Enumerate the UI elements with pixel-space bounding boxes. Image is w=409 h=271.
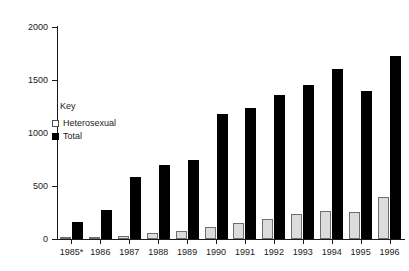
x-axis-tick xyxy=(361,240,362,244)
bar-heterosexual xyxy=(291,214,302,239)
legend-swatch-heterosexual xyxy=(52,120,59,127)
bar-total xyxy=(130,177,141,239)
bar-group xyxy=(320,27,343,239)
bar-heterosexual xyxy=(89,237,100,239)
legend-label-heterosexual: Heterosexual xyxy=(63,118,116,128)
bar-total xyxy=(390,56,401,239)
bar-group xyxy=(262,27,285,239)
bar-heterosexual xyxy=(60,237,71,239)
bar-heterosexual xyxy=(262,219,273,239)
bar-heterosexual xyxy=(233,223,244,239)
legend-item-heterosexual: Heterosexual xyxy=(52,117,144,129)
bar-group xyxy=(233,27,256,239)
bar-total xyxy=(72,222,83,239)
bar-heterosexual xyxy=(147,233,158,239)
bar-group xyxy=(176,27,199,239)
x-axis-tick xyxy=(71,240,72,244)
bar-total xyxy=(332,69,343,239)
y-axis-tick-label: 500 xyxy=(0,182,48,191)
bar-group xyxy=(378,27,401,239)
x-axis-tick xyxy=(187,240,188,244)
x-axis-tick xyxy=(158,240,159,244)
y-axis-tick-label: 2000 xyxy=(0,23,48,32)
x-axis-tick xyxy=(245,240,246,244)
bar-total xyxy=(101,210,112,239)
x-axis-tick xyxy=(129,240,130,244)
x-axis-tick xyxy=(390,240,391,244)
bar-heterosexual xyxy=(205,227,216,239)
bar-total xyxy=(159,165,170,239)
bar-total xyxy=(217,114,228,239)
bar-group xyxy=(205,27,228,239)
y-axis-tick-label: 1000 xyxy=(0,129,48,138)
bar-group xyxy=(349,27,372,239)
x-axis-tick xyxy=(274,240,275,244)
bar-total xyxy=(361,91,372,239)
bar-heterosexual xyxy=(176,231,187,239)
y-axis-tick xyxy=(52,239,57,240)
bar-total xyxy=(245,108,256,239)
x-axis-tick xyxy=(100,240,101,244)
bar-group xyxy=(291,27,314,239)
chart-title xyxy=(70,0,350,7)
bar-heterosexual xyxy=(378,197,389,239)
legend-label-total: Total xyxy=(63,131,82,141)
x-axis-tick xyxy=(332,240,333,244)
legend-item-total: Total xyxy=(52,130,144,142)
x-axis-tick xyxy=(216,240,217,244)
bar-total xyxy=(188,160,199,239)
legend-swatch-total xyxy=(52,133,59,140)
y-axis-tick-label: 0 xyxy=(0,235,48,244)
bar-heterosexual xyxy=(349,212,360,239)
x-axis-tick xyxy=(303,240,304,244)
y-axis-tick-label: 1500 xyxy=(0,76,48,85)
bar-group xyxy=(147,27,170,239)
bar-chart-figure: 0500100015002000 1985*198619871988198919… xyxy=(0,0,409,271)
bar-total xyxy=(274,95,285,239)
x-axis-tick-label: 1996 xyxy=(370,247,409,257)
x-axis-line xyxy=(57,239,405,240)
bar-heterosexual xyxy=(320,211,331,239)
legend-title: Key xyxy=(60,101,144,112)
bar-total xyxy=(303,85,314,239)
chart-legend: Key Heterosexual Total xyxy=(52,101,144,143)
bar-heterosexual xyxy=(118,236,129,239)
